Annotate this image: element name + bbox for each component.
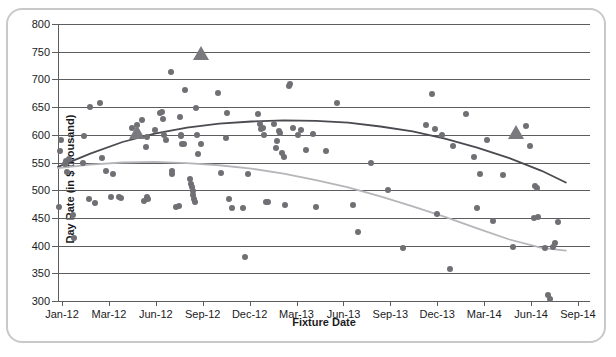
plot-area: 300350400450500550600650700750800 Jan-12… [58, 24, 590, 301]
triangle-marker [508, 125, 524, 139]
x-tick [203, 301, 204, 306]
data-point [434, 211, 440, 217]
data-point [110, 171, 116, 177]
y-tick-label: 400 [32, 240, 50, 252]
x-tick-label: Mar-14 [467, 308, 502, 320]
data-point [313, 204, 319, 210]
data-point [64, 169, 70, 175]
y-tick [52, 301, 58, 302]
trendline-layer [58, 24, 590, 301]
data-point [177, 114, 183, 120]
x-tick-label: Dec-12 [232, 308, 267, 320]
data-point [81, 133, 87, 139]
x-tick-label: Jan-12 [45, 308, 79, 320]
triangle-marker [193, 46, 209, 60]
x-axis-title: Fixture Date [58, 316, 590, 328]
data-point [245, 171, 251, 177]
x-tick [437, 301, 438, 306]
data-point [145, 196, 151, 202]
data-point [432, 126, 438, 132]
x-tick-label: Mar-12 [91, 308, 126, 320]
data-point [159, 109, 165, 115]
y-tick-label: 350 [32, 267, 50, 279]
y-tick-label: 650 [32, 101, 50, 113]
data-point [534, 185, 540, 191]
data-point [471, 154, 477, 160]
x-tick [531, 301, 532, 306]
x-tick [109, 301, 110, 306]
data-point [223, 135, 229, 141]
data-point [118, 195, 124, 201]
y-tick-label: 800 [32, 18, 50, 30]
x-tick [62, 301, 63, 306]
data-point [290, 125, 296, 131]
gridline [58, 301, 590, 302]
x-tick [578, 301, 579, 306]
x-tick [343, 301, 344, 306]
data-point [552, 240, 558, 246]
data-point [163, 137, 169, 143]
data-point [477, 171, 483, 177]
data-point [70, 212, 76, 218]
data-point [463, 111, 469, 117]
x-tick [156, 301, 157, 306]
data-point [273, 145, 279, 151]
y-tick-label: 750 [32, 46, 50, 58]
trendline [58, 162, 566, 251]
data-point [224, 110, 230, 116]
x-tick [250, 301, 251, 306]
data-point [271, 121, 277, 127]
x-tick [484, 301, 485, 306]
data-point [265, 199, 271, 205]
data-point [439, 132, 445, 138]
data-point [71, 235, 77, 241]
data-point [56, 204, 62, 210]
x-tick-label: Jun-12 [139, 308, 173, 320]
data-point [215, 90, 221, 96]
data-point [510, 244, 516, 250]
x-tick-label: Jun-13 [327, 308, 361, 320]
chart-title-sliver [120, 0, 492, 5]
y-tick-label: 450 [32, 212, 50, 224]
data-point [103, 168, 109, 174]
x-tick-label: Sep-14 [560, 308, 595, 320]
data-point [139, 117, 145, 123]
data-point [281, 154, 287, 160]
data-point [160, 116, 166, 122]
data-point [218, 170, 224, 176]
data-point [143, 144, 149, 150]
data-point [80, 160, 86, 166]
data-point [368, 160, 374, 166]
y-tick-label: 700 [32, 73, 50, 85]
data-point [542, 245, 548, 251]
x-tick-label: Sep-13 [373, 308, 408, 320]
y-tick-label: 600 [32, 129, 50, 141]
data-point [176, 203, 182, 209]
data-point [181, 141, 187, 147]
data-point [423, 122, 429, 128]
data-point [92, 200, 98, 206]
data-point [260, 125, 266, 131]
data-point [168, 69, 174, 75]
data-point [86, 196, 92, 202]
data-point [226, 196, 232, 202]
x-tick-label: Mar-13 [279, 308, 314, 320]
data-point [97, 100, 103, 106]
y-tick-label: 550 [32, 157, 50, 169]
x-tick-label: Sep-12 [185, 308, 220, 320]
data-point [355, 229, 361, 235]
data-point [193, 105, 199, 111]
x-tick [297, 301, 298, 306]
y-tick-label: 500 [32, 184, 50, 196]
x-tick [390, 301, 391, 306]
chart-figure: Day Rate (in $ thousand) Fixture Date 30… [0, 0, 616, 357]
data-point [450, 143, 456, 149]
x-tick-label: Jun-14 [514, 308, 548, 320]
x-tick-label: Dec-13 [420, 308, 455, 320]
y-tick-label: 300 [32, 295, 50, 307]
triangle-marker [129, 125, 145, 139]
data-point [310, 131, 316, 137]
data-point [194, 132, 200, 138]
